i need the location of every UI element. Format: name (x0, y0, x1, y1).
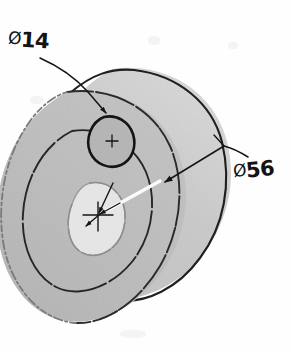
diameter-symbol-icon: Ø (232, 160, 247, 181)
drawing-sheet: Ø14 Ø56 (0, 0, 291, 352)
dimension-label-d56: Ø56 (232, 156, 275, 184)
dimension-value: 14 (20, 27, 50, 53)
dimension-value: 56 (245, 156, 276, 183)
dimension-label-d14: Ø14 (7, 27, 50, 54)
diameter-symbol-icon: Ø (7, 28, 21, 49)
